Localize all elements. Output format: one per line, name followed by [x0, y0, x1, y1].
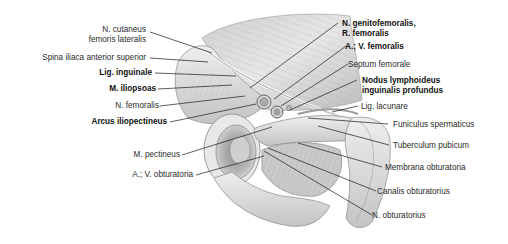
label-n-femoralis: N. femoralis	[115, 101, 159, 111]
label-n-genitofemoralis-r-femoralis: N. genitofemoralis, R. femoralis	[342, 19, 416, 38]
label-tuberculum-pubicum: Tuberculum pubicum	[393, 141, 469, 151]
label-membrana-obturatoria: Membrana obturatoria	[385, 163, 466, 173]
label-arcus-iliopectineus: Arcus iliopectineus	[91, 117, 167, 127]
label-n-obturatorius: N. obturatorius	[372, 211, 426, 221]
anatomy-figure: N. cutaneus femoris lateralis Spina ilia…	[0, 0, 508, 244]
label-spina-iliaca-anterior-superior: Spina iliaca anterior superior	[42, 53, 146, 63]
label-a-v-obturatoria: A.; V. obturatoria	[132, 170, 193, 180]
label-lig-lacunare: Lig. lacunare	[361, 102, 408, 112]
label-m-pectineus: M. pectineus	[134, 150, 180, 160]
label-funiculus-spermaticus: Funiculus spermaticus	[393, 120, 474, 130]
label-a-v-femoralis: A.; V. femoralis	[345, 42, 404, 52]
label-canalis-obturatorius: Canalis obturatorius	[377, 187, 450, 197]
label-n-cutaneus-femoris-lateralis: N. cutaneus femoris lateralis	[89, 25, 146, 44]
label-nodus-lymphoideus-inguinalis-profundus: Nodus lymphoideus inguinalis profundus	[362, 76, 443, 95]
label-m-iliopsoas: M. iliopsoas	[109, 84, 156, 94]
label-lig-inguinale: Lig. inguinale	[99, 68, 152, 78]
label-septum-femorale: Septum femorale	[348, 60, 410, 70]
